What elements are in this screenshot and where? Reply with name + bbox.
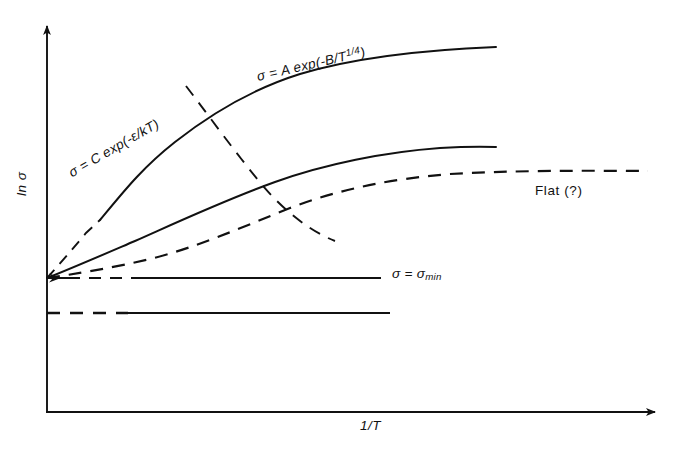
x-axis-label: 1/T: [360, 418, 381, 433]
sigma-min-prefix: σ = σ: [392, 266, 425, 281]
annotation-flat-label: Flat (?): [535, 183, 583, 198]
y-axis-label: ln σ: [14, 172, 29, 196]
sigma-min-subscript: min: [425, 271, 442, 282]
curve-arrhenius-nearest-neighbour-hopping: [47, 147, 496, 278]
annotation-sigma-min-label: σ = σmin: [392, 266, 442, 282]
dashed-crossing-arc: [186, 86, 335, 241]
plot-svg: [0, 0, 680, 452]
curve-mott-leadin: [47, 220, 100, 278]
figure-canvas: σ = A exp(-B/T1/4) σ = C exp(-ε/kT) Flat…: [0, 0, 680, 452]
